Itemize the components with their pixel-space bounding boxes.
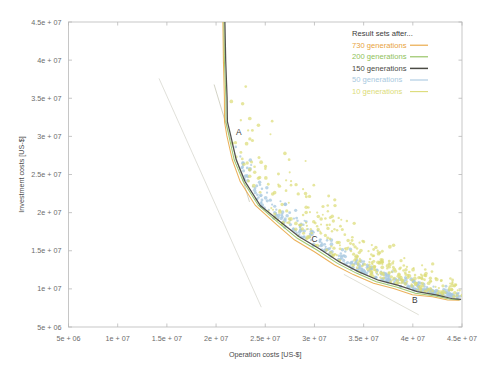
legend-title: Result sets after... <box>352 29 413 38</box>
scatter-point <box>459 289 461 291</box>
scatter-point <box>333 204 336 207</box>
scatter-point <box>351 236 354 239</box>
scatter-point <box>245 142 249 146</box>
y-tick-label: 5e + 06 <box>37 323 61 332</box>
scatter-point <box>429 280 432 283</box>
scatter-point <box>371 244 373 246</box>
scatter-point <box>271 120 274 123</box>
scatter-point <box>248 117 252 121</box>
scatter-point <box>309 211 311 213</box>
scatter-point <box>259 160 263 164</box>
scatter-point <box>355 254 359 258</box>
scatter-point <box>288 202 290 204</box>
scatter-point <box>234 146 237 149</box>
scatter-point <box>248 137 251 140</box>
scatter-point <box>329 238 332 241</box>
scatter-point <box>438 287 440 289</box>
scatter-point <box>258 156 261 159</box>
scatter-point <box>382 276 385 279</box>
scatter-point <box>417 276 420 279</box>
scatter-point <box>290 184 293 187</box>
scatter-point <box>252 184 256 188</box>
y-tick-label: 4e + 07 <box>37 56 61 65</box>
scatter-point <box>280 203 283 206</box>
scatter-point <box>421 282 424 285</box>
scatter-point <box>396 279 399 282</box>
scatter-point <box>326 239 329 242</box>
scatter-point <box>441 284 444 287</box>
scatter-point <box>316 225 319 228</box>
scatter-point <box>387 271 390 274</box>
scatter-point <box>326 236 329 239</box>
scatter-point <box>329 216 332 219</box>
scatter-point <box>271 204 273 206</box>
scatter-point <box>242 169 245 172</box>
scatter-point <box>419 285 422 288</box>
scatter-point <box>444 291 447 294</box>
scatter-point <box>448 294 451 297</box>
scatter-point <box>363 263 366 266</box>
scatter-point <box>358 241 360 243</box>
scatter-point <box>421 275 424 278</box>
scatter-point <box>301 227 304 230</box>
scatter-point <box>326 227 329 230</box>
scatter-point <box>377 274 379 276</box>
scatter-point <box>445 285 448 288</box>
scatter-point <box>368 263 371 266</box>
scatter-point <box>346 261 349 264</box>
scatter-point <box>457 289 459 291</box>
annotation-C: C <box>311 234 317 244</box>
scatter-point <box>261 199 264 202</box>
scatter-point <box>361 265 364 268</box>
scatter-point <box>350 250 353 253</box>
scatter-point <box>327 210 329 212</box>
scatter-point <box>275 208 277 210</box>
scatter-point <box>390 275 393 278</box>
scatter-point <box>431 270 434 273</box>
scatter-point <box>266 199 269 202</box>
scatter-point <box>247 129 249 131</box>
scatter-point <box>434 286 436 288</box>
scatter-point <box>328 224 330 226</box>
scatter-point <box>286 222 288 224</box>
scatter-point <box>411 279 414 282</box>
scatter-point <box>264 196 268 200</box>
scatter-point <box>429 291 431 293</box>
scatter-point <box>421 264 423 266</box>
scatter-point <box>270 207 272 209</box>
scatter-point <box>410 285 413 288</box>
legend-label-150-generations: 150 generations <box>352 64 407 73</box>
scatter-point <box>437 290 439 292</box>
scatter-point <box>250 160 253 163</box>
scatter-point <box>333 198 336 201</box>
scatter-point <box>332 246 335 249</box>
scatter-point <box>260 201 263 204</box>
legend-label-200-generations: 200 generations <box>352 52 407 61</box>
scatter-point <box>239 151 242 154</box>
scatter-point <box>241 158 244 161</box>
scatter-point <box>341 228 344 231</box>
scatter-point <box>392 244 396 248</box>
scatter-point <box>242 163 245 166</box>
scatter-point <box>302 232 305 235</box>
scatter-point <box>269 198 272 201</box>
scatter-point <box>273 212 276 215</box>
scatter-point <box>398 268 401 271</box>
scatter-point <box>363 260 365 262</box>
scatter-point <box>361 240 364 243</box>
scatter-point <box>366 268 369 271</box>
scatter-point <box>294 209 297 212</box>
scatter-point <box>239 155 241 157</box>
y-tick-label: 3e + 07 <box>37 132 61 141</box>
scatter-point <box>318 241 320 243</box>
scatter-point <box>440 279 443 282</box>
scatter-point <box>322 214 324 216</box>
scatter-point <box>267 183 270 186</box>
scatter-point <box>278 209 281 212</box>
scatter-point <box>302 235 305 238</box>
scatter-point <box>432 286 434 288</box>
scatter-point <box>360 269 363 272</box>
scatter-point <box>407 274 410 277</box>
scatter-point <box>346 220 348 222</box>
scatter-point <box>324 217 327 220</box>
